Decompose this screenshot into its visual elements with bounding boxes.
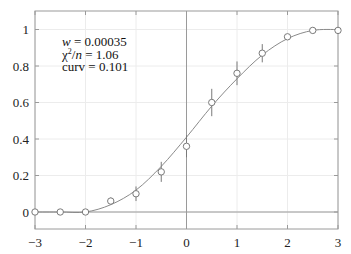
x-tick-label: −3 <box>28 235 42 250</box>
x-tick-label: 0 <box>183 235 190 250</box>
x-tick-label: 1 <box>234 235 241 250</box>
x-tick-label: −2 <box>79 235 93 250</box>
data-point-marker <box>234 70 240 76</box>
y-tick-label: 0.4 <box>13 132 30 147</box>
x-tick-label: −1 <box>129 235 143 250</box>
y-tick-label: 0.2 <box>13 168 29 183</box>
data-point-marker <box>57 209 63 215</box>
annotation-curv: curv = 0.101 <box>62 59 128 74</box>
chart: −3−2−10123 00.20.40.60.81 w = 0.00035 χ2… <box>0 0 351 254</box>
y-tick-label: 1 <box>23 22 30 37</box>
y-axis-tick-labels: 00.20.40.60.81 <box>13 22 30 220</box>
data-point-marker <box>310 27 316 33</box>
data-point-marker <box>259 50 265 56</box>
data-point-marker <box>133 191 139 197</box>
data-point-marker <box>32 209 38 215</box>
y-tick-label: 0.8 <box>13 59 29 74</box>
x-tick-label: 2 <box>284 235 291 250</box>
x-tick-label: 3 <box>335 235 342 250</box>
data-point-marker <box>284 34 290 40</box>
fit-statistics-annotation: w = 0.00035 χ2/n = 1.06 curv = 0.101 <box>61 34 128 74</box>
y-tick-label: 0 <box>23 205 30 220</box>
data-point-marker <box>82 209 88 215</box>
y-tick-label: 0.6 <box>13 95 30 110</box>
data-point-marker <box>335 27 341 33</box>
x-axis-tick-labels: −3−2−10123 <box>28 235 341 250</box>
data-point-marker <box>183 143 189 149</box>
data-point-marker <box>209 99 215 105</box>
data-point-marker <box>108 198 114 204</box>
data-point-marker <box>158 169 164 175</box>
